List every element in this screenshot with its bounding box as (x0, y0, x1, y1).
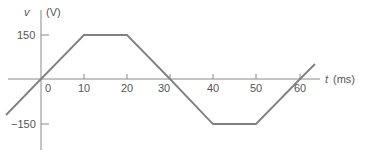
x-tick-label-40: 40 (207, 82, 219, 94)
x-axis-unit: (ms) (333, 73, 355, 85)
y-tick-label-150: 150 (17, 29, 35, 41)
x-ticks (84, 74, 300, 79)
x-tick-label-10: 10 (78, 82, 90, 94)
x-tick-label-30: 30 (158, 82, 170, 94)
x-tick-label-0: 0 (45, 82, 51, 94)
voltage-waveform-chart: v (V) 150 −150 0 10 20 30 40 50 60 t (ms… (0, 0, 368, 160)
x-axis-symbol: t (325, 73, 329, 85)
y-axis-unit: (V) (46, 6, 61, 18)
x-tick-label-20: 20 (121, 82, 133, 94)
y-tick-label-neg150: −150 (11, 118, 36, 130)
x-tick-label-60: 60 (294, 82, 306, 94)
y-axis-symbol: v (24, 6, 31, 18)
x-tick-label-50: 50 (250, 82, 262, 94)
